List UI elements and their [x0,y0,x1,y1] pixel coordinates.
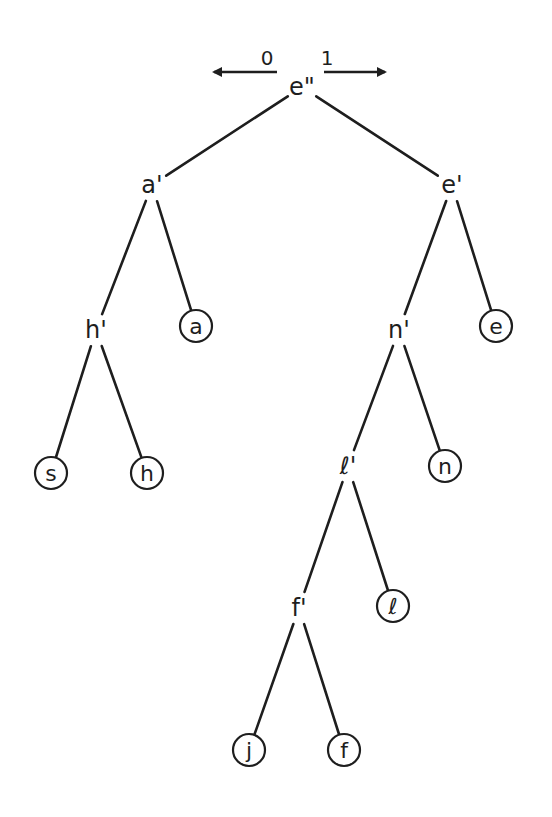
edge-a1-h1 [102,201,146,314]
node-label: j [245,738,252,763]
tree-edges [56,96,491,735]
edge-h1-s [56,346,91,458]
node-label: n' [388,316,410,344]
edge-root-e1 [316,96,438,175]
edge-n1-n [404,346,439,451]
node-label: h' [85,316,107,344]
edge-n1-l1 [354,346,393,450]
node-label: n [438,454,452,479]
edge-a1-a [157,201,191,310]
internal-node-root: e" [289,73,315,101]
internal-node-l1: ℓ' [339,452,357,480]
node-label: ℓ [387,594,397,619]
node-label: e" [289,73,315,101]
node-label: a [189,314,202,339]
edge-e1-n1 [405,201,446,314]
node-label: h [140,461,154,486]
internal-node-e1: e' [441,171,462,199]
direction-legend: 0 1 [214,46,385,72]
internal-node-n1: n' [388,316,410,344]
edge-e1-e [457,201,491,310]
tree-svg: 0 1 e"a'e'h'an'eshℓ'nf'ℓjf [0,0,552,817]
edge-f1-j [254,624,293,735]
edge-f1-f [304,624,339,735]
node-label: e' [441,171,462,199]
node-label: ℓ' [339,452,357,480]
one-label: 1 [321,46,334,70]
node-label: s [45,461,56,486]
edge-l1-f1 [305,482,343,592]
leaf-node-e: e [480,310,512,342]
huffman-tree-diagram: 0 1 e"a'e'h'an'eshℓ'nf'ℓjf [0,0,552,817]
edge-l1-l [353,482,388,591]
zero-label: 0 [261,46,274,70]
internal-node-h1: h' [85,316,107,344]
leaf-node-j: j [233,734,265,766]
edge-h1-h [102,346,142,458]
node-label: f' [291,594,306,622]
leaf-node-n: n [429,450,461,482]
node-label: a' [141,171,162,199]
node-label: e [489,314,503,339]
internal-node-f1: f' [291,594,306,622]
leaf-node-s: s [35,457,67,489]
leaf-node-h: h [131,457,163,489]
leaf-node-l: ℓ [377,590,409,622]
tree-nodes: e"a'e'h'an'eshℓ'nf'ℓjf [35,73,512,766]
leaf-node-f: f [328,734,360,766]
leaf-node-a: a [180,310,212,342]
internal-node-a1: a' [141,171,162,199]
edge-root-a1 [166,96,288,175]
node-label: f [340,738,349,763]
